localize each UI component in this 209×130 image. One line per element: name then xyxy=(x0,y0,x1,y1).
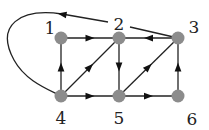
edge-3-to-4 xyxy=(8,13,178,96)
node-label-2: 2 xyxy=(114,14,125,34)
edge-3-to-2-arrow xyxy=(144,35,153,42)
node-1 xyxy=(55,32,68,45)
edge-6-to-3-arrow xyxy=(175,63,182,72)
node-label-5: 5 xyxy=(114,108,125,128)
node-label-4: 4 xyxy=(56,108,67,128)
edge-1-to-2-arrow xyxy=(86,35,95,42)
edges xyxy=(8,13,178,96)
node-6 xyxy=(172,90,185,103)
node-5 xyxy=(113,90,126,103)
node-3 xyxy=(172,32,185,45)
edge-3-to-4-arrow xyxy=(58,12,67,19)
node-4 xyxy=(55,90,68,103)
edge-5-to-6-arrow xyxy=(144,93,153,100)
node-label-1: 1 xyxy=(45,18,56,38)
edge-4-to-1-arrow xyxy=(58,63,65,72)
edge-4-to-5-arrow xyxy=(86,93,95,100)
edge-2-to-5-arrow xyxy=(116,63,123,72)
node-label-3: 3 xyxy=(189,17,200,37)
directed-graph: 123456 xyxy=(0,0,209,130)
node-label-6: 6 xyxy=(187,109,198,129)
